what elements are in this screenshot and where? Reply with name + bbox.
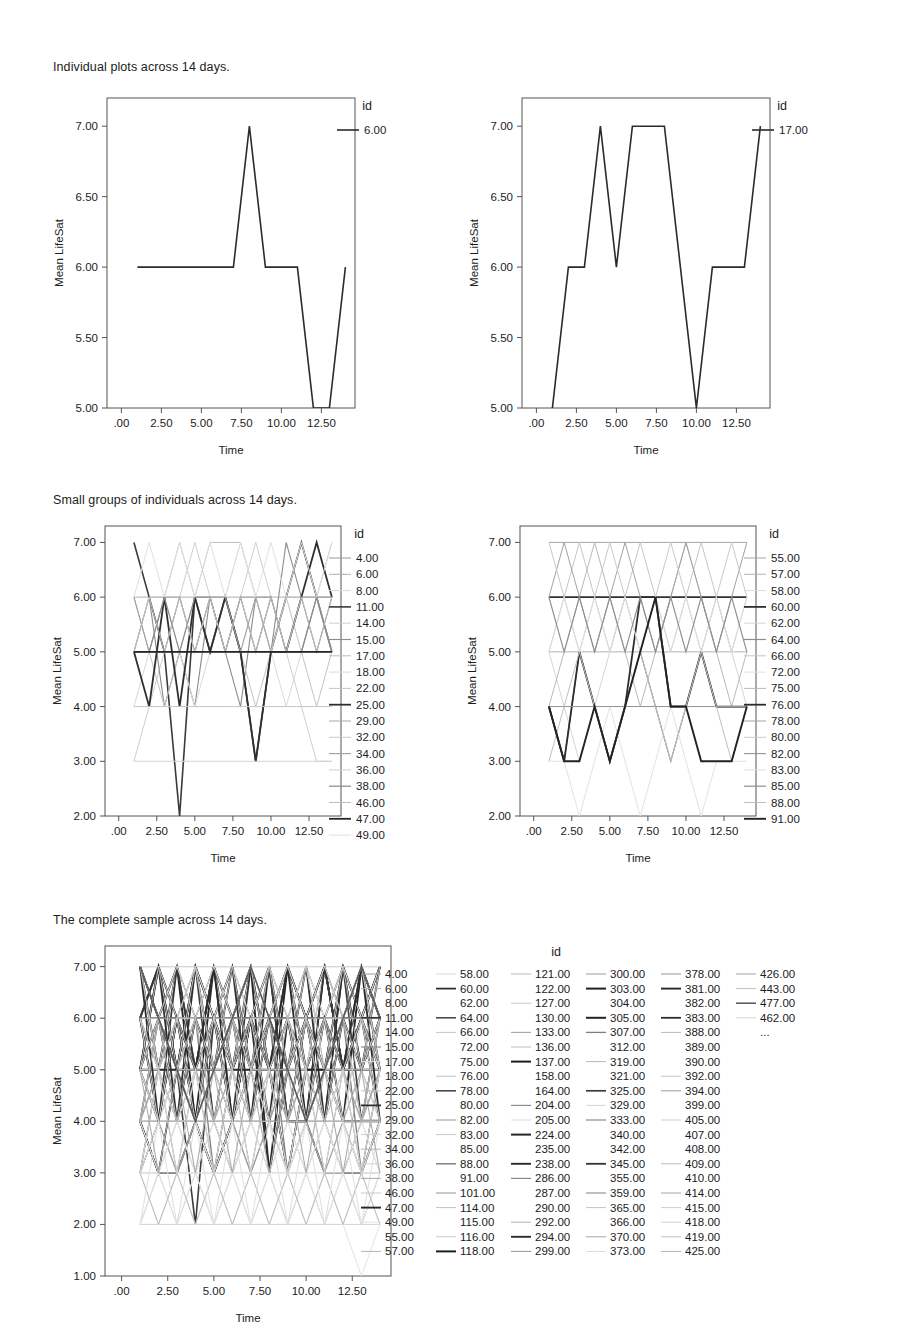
svg-text:17.00: 17.00	[779, 124, 808, 136]
svg-text:205.00: 205.00	[535, 1114, 570, 1126]
svg-text:22.00: 22.00	[356, 682, 385, 694]
svg-text:83.00: 83.00	[771, 764, 800, 776]
svg-text:388.00: 388.00	[685, 1026, 720, 1038]
svg-text:2.50: 2.50	[146, 825, 168, 837]
svg-text:Time: Time	[210, 852, 235, 864]
svg-text:8.00: 8.00	[385, 997, 407, 1009]
svg-text:25.00: 25.00	[356, 699, 385, 711]
svg-text:15.00: 15.00	[385, 1041, 414, 1053]
svg-text:235.00: 235.00	[535, 1143, 570, 1155]
svg-text:359.00: 359.00	[610, 1187, 645, 1199]
svg-text:366.00: 366.00	[610, 1216, 645, 1228]
svg-text:72.00: 72.00	[460, 1041, 489, 1053]
svg-text:Time: Time	[235, 1312, 260, 1324]
svg-text:55.00: 55.00	[771, 552, 800, 564]
chart-complete-sample[interactable]: 1.002.003.004.005.006.007.00.002.505.007…	[45, 938, 905, 1338]
svg-text:12.50: 12.50	[338, 1285, 367, 1297]
svg-text:36.00: 36.00	[385, 1158, 414, 1170]
svg-text:6.00: 6.00	[356, 568, 378, 580]
svg-text:136.00: 136.00	[535, 1041, 570, 1053]
svg-text:224.00: 224.00	[535, 1129, 570, 1141]
svg-text:11.00: 11.00	[356, 601, 384, 613]
svg-text:290.00: 290.00	[535, 1202, 570, 1214]
svg-text:305.00: 305.00	[610, 1012, 645, 1024]
svg-text:6.50: 6.50	[76, 191, 98, 203]
svg-text:8.00: 8.00	[356, 585, 378, 597]
svg-text:5.00: 5.00	[74, 1064, 96, 1076]
svg-text:49.00: 49.00	[385, 1216, 414, 1228]
svg-text:15.00: 15.00	[356, 634, 385, 646]
svg-text:462.00: 462.00	[760, 1012, 795, 1024]
svg-text:id: id	[354, 527, 364, 541]
svg-text:.00: .00	[111, 825, 127, 837]
svg-text:76.00: 76.00	[771, 699, 800, 711]
svg-text:321.00: 321.00	[610, 1070, 645, 1082]
svg-text:443.00: 443.00	[760, 983, 795, 995]
svg-text:137.00: 137.00	[535, 1056, 570, 1068]
svg-text:383.00: 383.00	[685, 1012, 720, 1024]
svg-text:6.00: 6.00	[385, 983, 407, 995]
svg-text:5.50: 5.50	[491, 332, 513, 344]
chart-small-group-a[interactable]: 2.003.004.005.006.007.00.002.505.007.501…	[45, 518, 465, 868]
svg-text:4.00: 4.00	[385, 968, 407, 980]
svg-text:2.00: 2.00	[74, 810, 96, 822]
svg-text:312.00: 312.00	[610, 1041, 645, 1053]
svg-text:72.00: 72.00	[771, 666, 800, 678]
svg-text:1.00: 1.00	[74, 1270, 96, 1282]
svg-text:6.00: 6.00	[74, 591, 96, 603]
section-individual-plots: Individual plots across 14 days. 5.005.5…	[0, 0, 913, 460]
svg-text:116.00: 116.00	[460, 1231, 494, 1243]
svg-text:7.00: 7.00	[74, 536, 96, 548]
svg-text:...: ...	[760, 1026, 770, 1038]
svg-text:394.00: 394.00	[685, 1085, 720, 1097]
svg-text:17.00: 17.00	[356, 650, 385, 662]
svg-text:204.00: 204.00	[535, 1099, 570, 1111]
svg-text:id: id	[777, 99, 787, 113]
svg-text:2.00: 2.00	[74, 1218, 96, 1230]
svg-text:365.00: 365.00	[610, 1202, 645, 1214]
svg-text:238.00: 238.00	[535, 1158, 570, 1170]
svg-text:418.00: 418.00	[685, 1216, 720, 1228]
svg-text:7.50: 7.50	[249, 1285, 271, 1297]
chart-individual-id-17[interactable]: 5.005.506.006.507.00.002.505.007.5010.00…	[460, 90, 890, 450]
svg-text:58.00: 58.00	[460, 968, 489, 980]
svg-text:390.00: 390.00	[685, 1056, 720, 1068]
svg-text:329.00: 329.00	[610, 1099, 645, 1111]
svg-text:414.00: 414.00	[685, 1187, 720, 1199]
svg-text:91.00: 91.00	[460, 1172, 489, 1184]
svg-text:399.00: 399.00	[685, 1099, 720, 1111]
svg-text:Time: Time	[625, 852, 650, 864]
svg-text:2.50: 2.50	[150, 417, 172, 429]
svg-text:5.00: 5.00	[605, 417, 627, 429]
svg-text:46.00: 46.00	[356, 797, 385, 809]
svg-text:60.00: 60.00	[460, 983, 489, 995]
svg-text:32.00: 32.00	[385, 1129, 414, 1141]
chart-individual-id-6[interactable]: 5.005.506.006.507.00.002.505.007.5010.00…	[45, 90, 465, 450]
svg-text:.00: .00	[528, 417, 544, 429]
svg-text:6.00: 6.00	[364, 124, 386, 136]
svg-text:409.00: 409.00	[685, 1158, 720, 1170]
svg-text:5.00: 5.00	[491, 402, 513, 414]
svg-text:122.00: 122.00	[535, 983, 570, 995]
svg-text:5.00: 5.00	[599, 825, 621, 837]
svg-text:Mean LifeSat: Mean LifeSat	[51, 636, 63, 705]
svg-text:76.00: 76.00	[460, 1070, 489, 1082]
svg-text:57.00: 57.00	[771, 568, 800, 580]
chart-small-group-b[interactable]: 2.003.004.005.006.007.00.002.505.007.501…	[460, 518, 890, 868]
svg-text:378.00: 378.00	[685, 968, 720, 980]
svg-text:410.00: 410.00	[685, 1172, 720, 1184]
svg-text:3.00: 3.00	[74, 755, 96, 767]
svg-text:6.00: 6.00	[491, 261, 513, 273]
svg-text:10.00: 10.00	[257, 825, 286, 837]
svg-text:id: id	[362, 99, 372, 113]
svg-text:7.00: 7.00	[491, 120, 513, 132]
section-small-groups: Small groups of individuals across 14 da…	[0, 460, 913, 890]
svg-text:10.00: 10.00	[267, 417, 296, 429]
svg-text:304.00: 304.00	[610, 997, 645, 1009]
svg-text:7.50: 7.50	[645, 417, 667, 429]
svg-text:47.00: 47.00	[356, 813, 385, 825]
svg-text:88.00: 88.00	[460, 1158, 489, 1170]
svg-text:303.00: 303.00	[610, 983, 645, 995]
svg-text:id: id	[551, 945, 561, 959]
svg-text:57.00: 57.00	[385, 1245, 414, 1257]
